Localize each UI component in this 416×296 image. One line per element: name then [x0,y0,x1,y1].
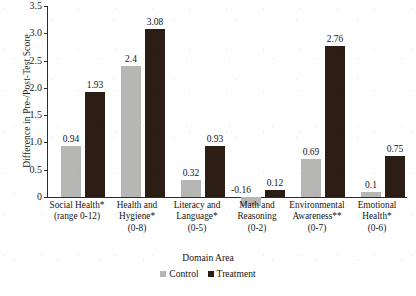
y-tick-label: 3.0 [30,28,43,38]
x-category-label-line: Health* [348,211,406,222]
x-category-label-line: Language* [168,211,226,222]
bar-value-label: 0.12 [267,178,284,188]
bar-value-label: 0.69 [303,147,320,157]
bar-group: 0.692.76 [287,6,347,198]
bar-treatment [205,146,225,197]
y-tick-label: 0 [37,192,42,202]
chart-legend: ControlTreatment [0,268,416,279]
bar-value-label: 0.93 [207,134,224,144]
legend-item-control[interactable]: Control [160,268,198,279]
legend-label: Treatment [217,268,256,279]
bar-value-label: 0.32 [183,168,200,178]
x-category-label-line: (0-7) [288,223,346,234]
x-category-label-line: (0-5) [168,223,226,234]
x-category-label-line: (range 0-12) [48,211,106,222]
bar-value-label: 2.76 [327,34,344,44]
y-tick-label: 1.5 [30,110,43,120]
bar-group: 0.941.93 [47,6,107,198]
bar-treatment [85,92,105,197]
y-tick-label: 3.5 [30,1,43,11]
x-axis-category-labels: Social Health*(range 0-12)Health andHygi… [47,200,407,234]
x-category-label: EmotionalHealth*(0-6) [347,200,407,234]
x-category-label: Math andReasoning(0-2) [227,200,287,234]
bar-value-label: 0.1 [365,180,377,190]
bar-control [181,180,201,197]
x-category-label: EnvironmentalAwareness**(0-7) [287,200,347,234]
x-category-label-line: Health and [108,200,166,211]
bar-treatment [145,29,165,197]
x-category-label-line: Reasoning [228,211,286,222]
bar-treatment [385,156,405,197]
y-tick-label: 2.0 [30,83,43,93]
x-category-label-line: (0-2) [228,223,286,234]
bar-value-label: 1.93 [87,80,104,90]
bar-value-label: -0.16 [231,185,251,195]
bar-value-label: 3.08 [147,17,164,27]
x-axis-title: Domain Area [0,252,416,263]
x-category-label-line: (0-6) [348,223,406,234]
bar-control [121,66,141,197]
bar-control [361,192,381,197]
bar-treatment [265,190,285,197]
x-category-label-line: (0-8) [108,223,166,234]
x-category-label-line: Awareness** [288,211,346,222]
bar-value-label: 0.94 [63,134,80,144]
y-tick-label: 2.5 [30,56,43,66]
legend-swatch-icon [208,271,214,277]
x-category-label: Health andHygiene*(0-8) [107,200,167,234]
bar-chart: Difference in Pre-/Post-Test Score 3.53.… [0,0,416,296]
x-category-label-line: Emotional [348,200,406,211]
bar-treatment [325,46,345,197]
bar-control [301,159,321,197]
x-category-label-line: Math and [228,200,286,211]
legend-item-treatment[interactable]: Treatment [208,268,256,279]
bar-group: 0.10.75 [347,6,407,198]
x-category-label: Literacy andLanguage*(0-5) [167,200,227,234]
x-category-label-line: Hygiene* [108,211,166,222]
bar-value-label: 0.75 [387,144,404,154]
bar-groups: 0.941.932.43.080.320.93-0.160.120.692.76… [47,6,407,198]
x-category-label-line: Environmental [288,200,346,211]
bar-group: 2.43.08 [107,6,167,198]
bar-group: 0.320.93 [167,6,227,198]
plot-area: 3.53.02.52.01.51.00.50 0.941.932.43.080.… [47,6,407,198]
x-category-label-line: Social Health* [48,200,106,211]
bar-control [61,146,81,197]
x-category-label: Social Health*(range 0-12) [47,200,107,234]
legend-label: Control [169,268,198,279]
bar-value-label: 2.4 [125,54,137,64]
legend-swatch-icon [160,271,166,277]
x-category-label-line: Literacy and [168,200,226,211]
y-tick-label: 0.5 [30,165,43,175]
y-tick-label: 1.0 [30,137,43,147]
bar-group: -0.160.12 [227,6,287,198]
